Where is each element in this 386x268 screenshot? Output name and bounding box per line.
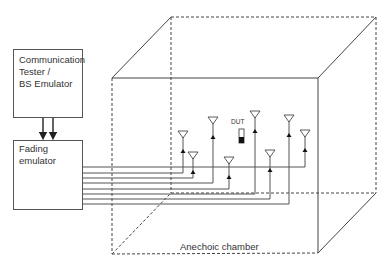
dut-label: DUT — [231, 118, 244, 125]
chamber-label: Anechoic chamber — [180, 241, 259, 252]
tester-label: Communication Tester / BS Emulator — [19, 54, 85, 90]
rf-cable — [83, 158, 193, 178]
chamber-front-face — [112, 78, 318, 254]
rf-cable — [83, 137, 183, 173]
tester-to-fading-arrows — [43, 118, 53, 136]
fading-label: Fading emulator — [19, 143, 56, 167]
diagram-canvas — [0, 0, 386, 268]
communication-tester-box: Communication Tester / BS Emulator — [13, 49, 83, 118]
rf-cables — [83, 117, 305, 204]
fading-emulator-box: Fading emulator — [13, 140, 83, 210]
dut-phone-icon — [239, 129, 244, 143]
